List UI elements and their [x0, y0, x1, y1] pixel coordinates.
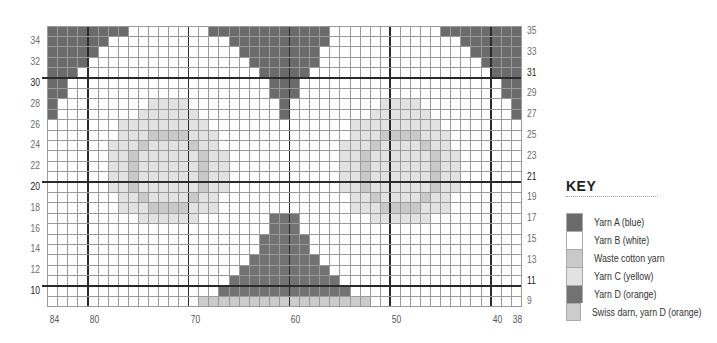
- key-label: Yarn A (blue): [594, 217, 644, 228]
- grid-hline: [48, 88, 522, 89]
- row-label-left: 26: [21, 119, 40, 130]
- row-label-left: 18: [21, 202, 40, 213]
- grid-hline: [48, 306, 522, 307]
- swatch-yarn-b: [566, 231, 583, 249]
- row-label-right: 29: [527, 87, 546, 98]
- row-label-left: 28: [21, 98, 40, 109]
- row-label-right: 15: [527, 233, 546, 244]
- chart-cell-waste: [420, 192, 430, 202]
- swatch-yarn-d: [566, 285, 583, 303]
- grid-hline: [42, 77, 522, 79]
- chart-cell-waste: [189, 192, 199, 202]
- chart-cell-waste: [199, 151, 209, 161]
- chart-cell-waste: [128, 182, 138, 192]
- key-legend: KEY Yarn A (blue) Yarn B (white) Waste c…: [566, 178, 716, 321]
- chart-cell-yarn-a: [511, 99, 521, 109]
- chart-cell-yarn-d: [269, 213, 299, 223]
- grid-hline: [48, 150, 522, 151]
- swatch-swiss: [566, 303, 581, 321]
- key-item-yarn-d: Yarn D (orange): [566, 285, 716, 303]
- row-label-left: 10: [21, 285, 40, 296]
- row-label-right: 23: [527, 150, 546, 161]
- row-label-left: 12: [21, 264, 40, 275]
- key-items: Yarn A (blue) Yarn B (white) Waste cotto…: [566, 213, 716, 321]
- key-item-swiss: Swiss darn, yarn D (orange): [566, 303, 716, 321]
- grid-hline: [48, 192, 522, 193]
- grid-hline: [48, 265, 522, 266]
- key-label: Yarn C (yellow): [594, 271, 653, 282]
- key-label: Waste cotton yarn: [594, 253, 665, 264]
- key-label: Yarn D (orange): [594, 289, 656, 300]
- col-label: 38: [513, 314, 522, 325]
- grid-hline: [42, 181, 522, 183]
- row-label-left: 16: [21, 223, 40, 234]
- row-label-right: 11: [527, 275, 546, 286]
- chart-cell-waste: [360, 161, 370, 171]
- row-label-right: 17: [527, 212, 546, 223]
- chart-cell-waste: [360, 151, 370, 161]
- chart-cell-waste: [370, 140, 380, 150]
- row-label-left: 22: [21, 160, 40, 171]
- grid-hline: [48, 36, 522, 37]
- chart-cell-yarn-c: [108, 140, 219, 150]
- col-label: 70: [190, 314, 199, 325]
- chart-cell-yarn-d: [239, 265, 330, 275]
- chart-cell-yarn-a: [269, 88, 299, 98]
- chart-cell-waste: [370, 192, 380, 202]
- key-item-yarn-b: Yarn B (white): [566, 231, 716, 249]
- key-label: Yarn B (white): [594, 235, 649, 246]
- grid-hline: [48, 161, 522, 162]
- grid-hline: [48, 296, 522, 297]
- key-item-yarn-c: Yarn C (yellow): [566, 267, 716, 285]
- grid-hline: [48, 234, 522, 235]
- chart-cell-waste: [360, 182, 370, 192]
- chart-cell-waste: [199, 182, 209, 192]
- chart-cell-yarn-c: [118, 120, 209, 130]
- col-label: 84: [49, 314, 58, 325]
- chart-cell-waste: [431, 182, 441, 192]
- grid-hline: [42, 285, 522, 287]
- key-label: Swiss darn, yarn D (orange): [592, 307, 702, 318]
- chart-cell-waste: [138, 140, 148, 150]
- chart-cell-waste: [199, 161, 209, 171]
- grid-hline: [48, 171, 522, 172]
- chart-cell-yarn-a: [48, 47, 98, 57]
- chart-cell-yarn-a: [269, 78, 299, 88]
- chart-cell-yarn-a: [511, 109, 521, 119]
- grid-hline: [48, 213, 522, 214]
- chart-cell-yarn-d: [259, 244, 309, 254]
- row-label-right: 21: [527, 171, 546, 182]
- row-label-right: 33: [527, 46, 546, 57]
- row-label-right: 9: [527, 295, 546, 306]
- chart-cell-waste: [431, 161, 441, 171]
- chart-cell-yarn-a: [48, 99, 58, 109]
- chart-cell-yarn-c: [350, 120, 441, 130]
- grid-hline: [48, 119, 522, 120]
- grid-hline: [48, 98, 522, 99]
- grid-hline: [48, 109, 522, 110]
- grid-hline: [48, 275, 522, 276]
- grid-hline: [48, 130, 522, 131]
- grid-hline: [48, 140, 522, 141]
- chart-cell-yarn-d: [269, 224, 299, 234]
- swatch-yarn-c: [566, 267, 583, 285]
- col-label: 40: [493, 314, 502, 325]
- row-label-left: 34: [21, 35, 40, 46]
- chart-cell-waste: [431, 151, 441, 161]
- chart-cell-yarn-a: [48, 109, 58, 119]
- chart-cell-waste: [189, 140, 199, 150]
- col-label: 60: [291, 314, 300, 325]
- swatch-waste: [566, 249, 583, 267]
- row-label-right: 31: [527, 67, 546, 78]
- key-title: KEY: [566, 178, 716, 194]
- grid-hline: [48, 223, 522, 224]
- key-item-waste: Waste cotton yarn: [566, 249, 716, 267]
- grid-hline: [48, 254, 522, 255]
- key-item-yarn-a: Yarn A (blue): [566, 213, 716, 231]
- row-label-left: 30: [21, 77, 40, 88]
- grid-hline: [48, 67, 522, 68]
- row-label-left: 32: [21, 56, 40, 67]
- chart-cell-waste: [138, 192, 148, 202]
- chart-cell-waste: [128, 151, 138, 161]
- chart-cell-yarn-d: [259, 234, 309, 244]
